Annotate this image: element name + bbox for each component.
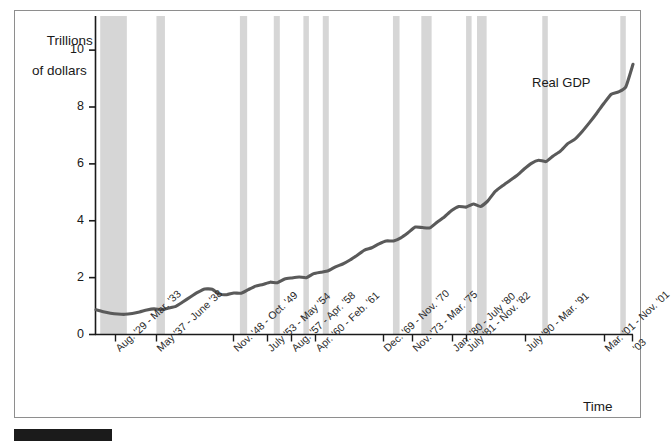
recession-band (542, 16, 548, 335)
y-axis-title: Trillions of dollars (32, 18, 93, 108)
x-tick-marks (116, 335, 633, 342)
recession-band (274, 16, 280, 335)
x-axis-title: Time (583, 399, 613, 414)
y-tick-label: 4 (58, 213, 84, 227)
y-tick-label: 0 (58, 327, 84, 341)
y-tick-label: 6 (58, 156, 84, 170)
recession-bands-group (100, 16, 626, 335)
recession-band (240, 16, 247, 335)
recession-band (156, 16, 164, 335)
series-label-real-gdp: Real GDP (532, 75, 591, 90)
recession-band (303, 16, 309, 335)
recession-band (477, 16, 487, 335)
recession-band (620, 16, 626, 335)
real-gdp-line (96, 64, 633, 314)
y-axis-title-line2: of dollars (32, 63, 93, 78)
y-tick-label: 8 (58, 99, 84, 113)
recession-band (421, 16, 431, 335)
recession-band (323, 16, 329, 335)
y-tick-label: 10 (58, 42, 84, 56)
footer-black-bar (14, 429, 112, 441)
recession-band (100, 16, 127, 335)
recession-band (393, 16, 400, 335)
y-tick-label: 2 (58, 270, 84, 284)
